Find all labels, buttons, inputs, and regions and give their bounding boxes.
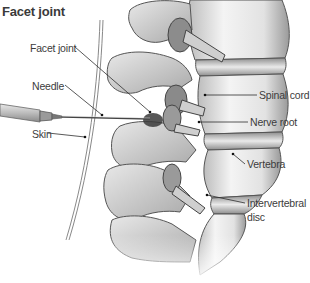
needle xyxy=(0,104,150,122)
label-intervertebral-disc-line2: disc xyxy=(247,211,265,223)
label-skin: Skin xyxy=(32,128,52,140)
label-needle: Needle xyxy=(32,80,64,92)
label-spinal-cord: Spinal cord xyxy=(259,89,309,101)
facet-joint-target xyxy=(143,113,163,127)
figure-title: Facet joint xyxy=(2,4,65,19)
label-nerve-root: Nerve root xyxy=(250,116,297,128)
label-intervertebral-disc-line1: Intervertebral xyxy=(247,197,306,209)
label-vertebra: Vertebra xyxy=(247,158,285,170)
facet-joint-diagram: Facet joint Facet joint Needle Skin Spin… xyxy=(0,0,310,283)
label-facet-joint: Facet joint xyxy=(30,42,76,54)
